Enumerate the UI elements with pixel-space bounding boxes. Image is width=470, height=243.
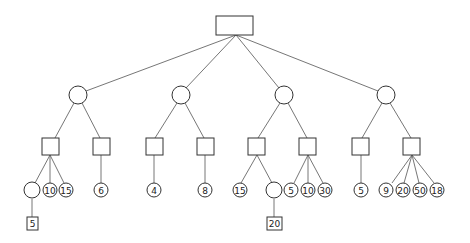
leaf-label-6: 8 (202, 186, 208, 196)
level2-node-7 (352, 138, 369, 155)
level2-node-6 (299, 138, 316, 155)
terminal-label-2: 20 (269, 219, 281, 229)
tree-diagram: 10 15 6 4 8 15 5 10 30 5 9 20 50 18 5 20 (0, 0, 470, 243)
terminal-label-1: 5 (30, 219, 36, 229)
leaf-label-13: 9 (383, 186, 389, 196)
leaf-label-10: 10 (302, 186, 314, 196)
level1-node-3 (275, 86, 293, 104)
leaf-label-3: 15 (60, 186, 71, 196)
level1-node-2 (172, 86, 190, 104)
level2-node-1 (42, 138, 59, 155)
leaf-label-7: 15 (234, 186, 245, 196)
leaf-label-9: 5 (288, 186, 294, 196)
level2-node-3 (146, 138, 163, 155)
root-node (216, 16, 253, 35)
leaf-label-15: 50 (414, 186, 426, 196)
leaf-label-12: 5 (358, 186, 364, 196)
nodes (24, 16, 444, 230)
leaf-label-5: 4 (151, 186, 157, 196)
leaf-node-8 (266, 182, 282, 198)
leaf-label-14: 20 (397, 186, 409, 196)
level2-node-2 (93, 138, 110, 155)
level2-node-4 (197, 138, 214, 155)
leaf-label-16: 18 (431, 186, 443, 196)
leaf-label-4: 6 (98, 186, 104, 196)
level1-node-1 (69, 86, 87, 104)
level2-node-5 (248, 138, 265, 155)
leaf-label-2: 10 (44, 186, 56, 196)
level2-node-8 (403, 138, 420, 155)
level1-node-4 (377, 86, 395, 104)
leaf-label-11: 30 (319, 186, 331, 196)
leaf-node-1 (24, 182, 40, 198)
